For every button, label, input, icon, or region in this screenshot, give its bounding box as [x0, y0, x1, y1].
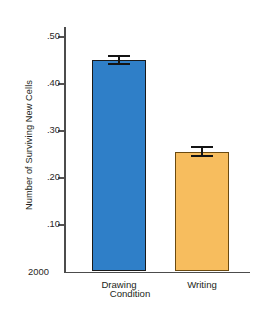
- error-bar-drawing: [108, 55, 130, 65]
- bar-writing: [175, 152, 229, 272]
- error-bar-cap-upper: [191, 146, 213, 148]
- error-bar-writing: [191, 146, 213, 157]
- y-axis-title: Number of Surviving New Cells: [24, 40, 34, 250]
- y-axis-line: [64, 27, 66, 273]
- y-axis-tick-label: .50: [47, 30, 60, 42]
- error-bar-cap-lower: [108, 63, 130, 65]
- plot-area: .50.40.30.20.10 2000 DrawingWriting: [64, 27, 250, 273]
- bar-chart-figure: Number of Surviving New Cells .50.40.30.…: [0, 0, 260, 319]
- y-axis-tick-label: .10: [47, 218, 60, 230]
- bar-drawing: [92, 60, 146, 272]
- y-axis-origin-label: 2000: [28, 266, 49, 277]
- error-bar-cap-upper: [108, 55, 130, 57]
- y-axis-tick-label: .30: [47, 124, 60, 136]
- x-axis-title: Condition: [0, 288, 260, 299]
- x-axis-line: [64, 272, 250, 274]
- y-axis-tick-label: .20: [47, 171, 60, 183]
- y-axis-tick-label: .40: [47, 77, 60, 89]
- error-bar-cap-lower: [191, 155, 213, 157]
